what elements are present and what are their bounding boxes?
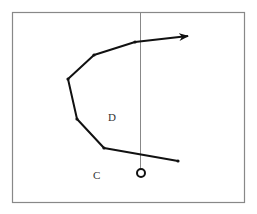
diagram-canvas: D C bbox=[0, 0, 257, 214]
trajectory-vertices bbox=[66, 40, 179, 162]
origin-circle bbox=[137, 169, 145, 177]
trajectory-path bbox=[68, 36, 188, 161]
label-d: D bbox=[108, 111, 116, 123]
label-c: C bbox=[93, 169, 100, 181]
diagram-frame bbox=[13, 13, 245, 203]
